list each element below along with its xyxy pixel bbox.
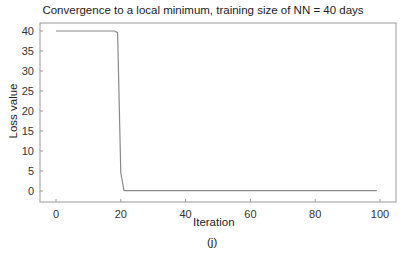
plot-frame	[40, 23, 396, 202]
y-tick-label: 40	[22, 25, 34, 37]
y-tick-label: 5	[28, 165, 34, 177]
x-tick-label: 0	[53, 208, 59, 220]
x-tick-label: 100	[371, 208, 389, 220]
x-tick-label: 20	[115, 208, 127, 220]
plot-area: 0204060801000510152025303540	[0, 0, 406, 263]
loss-line	[56, 31, 377, 191]
y-tick-label: 20	[22, 105, 34, 117]
x-tick-label: 80	[309, 208, 321, 220]
y-tick-label: 25	[22, 85, 34, 97]
y-tick-label: 30	[22, 65, 34, 77]
x-tick-label: 60	[244, 208, 256, 220]
y-tick-label: 10	[22, 145, 34, 157]
x-tick-label: 40	[179, 208, 191, 220]
y-tick-label: 35	[22, 45, 34, 57]
y-tick-label: 0	[28, 185, 34, 197]
y-tick-label: 15	[22, 125, 34, 137]
